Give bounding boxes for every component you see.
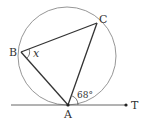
geometry-diagram: A B C T x 68°	[0, 0, 148, 122]
label-angle-x: x	[33, 47, 40, 60]
label-c: C	[99, 13, 107, 26]
point-a-dot	[66, 103, 69, 106]
label-t: T	[131, 99, 139, 112]
point-t-dot	[124, 103, 127, 106]
segment-ab	[21, 52, 68, 105]
label-angle-68: 68°	[77, 90, 93, 100]
angle-arc-b	[27, 49, 30, 58]
label-a: A	[63, 108, 73, 121]
label-b: B	[9, 46, 17, 59]
